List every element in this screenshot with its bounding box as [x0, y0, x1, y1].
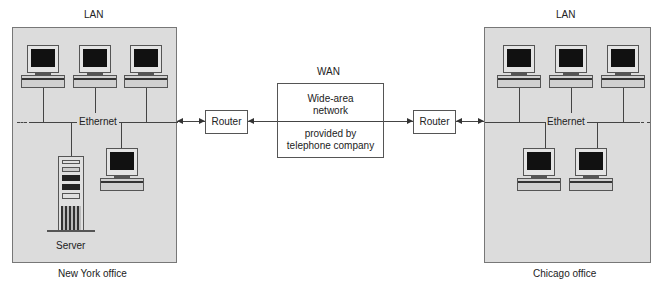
left-site-caption: New York office	[58, 268, 127, 279]
ethernet-label: Ethernet	[545, 116, 587, 127]
workstation-icon	[517, 148, 561, 192]
chicago-lan-box: Ethernet	[484, 27, 651, 263]
workstation-icon	[100, 148, 144, 192]
wan-line-2: network	[278, 105, 383, 117]
new-york-lan-box: Ethernet Server	[12, 27, 177, 263]
workstation-icon	[601, 45, 645, 89]
server-icon	[55, 156, 87, 236]
arrow-left-icon	[248, 118, 254, 124]
workstation-icon	[569, 148, 613, 192]
wan-line-3: provided by	[278, 128, 383, 140]
wan-title: WAN	[317, 66, 340, 77]
workstation-icon	[73, 45, 117, 89]
left-lan-title: LAN	[84, 9, 103, 20]
right-site-caption: Chicago office	[533, 268, 596, 279]
wan-line-1: Wide-area	[278, 93, 383, 105]
left-router-label: Router	[211, 116, 241, 127]
bus-continuation-dashes	[17, 122, 27, 124]
ethernet-label: Ethernet	[77, 116, 119, 127]
workstation-icon	[124, 45, 168, 89]
arrow-left-icon	[456, 118, 462, 124]
wan-line-4: telephone company	[278, 140, 383, 152]
right-router-label: Router	[419, 116, 449, 127]
left-router: Router	[205, 110, 248, 134]
arrow-left-icon	[177, 118, 183, 124]
workstation-icon	[21, 45, 65, 89]
right-lan-title: LAN	[556, 9, 575, 20]
wan-box: Wide-area network provided by telephone …	[277, 83, 384, 158]
bus-continuation-dashes	[641, 122, 650, 124]
right-router: Router	[413, 110, 456, 134]
server-label: Server	[56, 240, 85, 251]
workstation-icon	[497, 45, 541, 89]
workstation-icon	[549, 45, 593, 89]
